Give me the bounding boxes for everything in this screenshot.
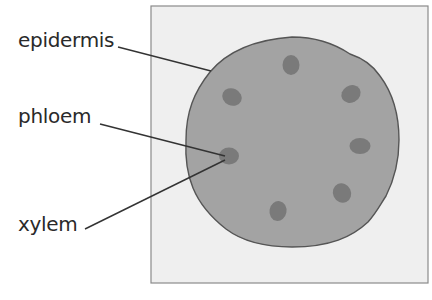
vascular-bundle [283,55,300,75]
xylem-label: xylem [18,214,78,234]
phloem-label: phloem [18,106,91,126]
vascular-bundle [350,138,371,154]
diagram-stage: epidermis phloem xylem [0,0,432,300]
epidermis-label: epidermis [18,30,114,50]
